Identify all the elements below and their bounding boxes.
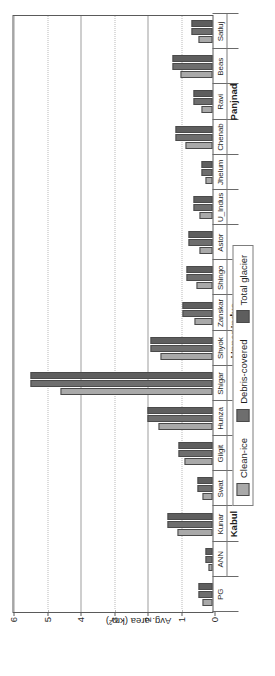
x-tick-label-swat: Swat [215, 480, 224, 497]
bar-total-glacier [188, 231, 212, 238]
x-tick-separator [212, 48, 238, 49]
x-tick-label-ann: ANN [215, 551, 224, 568]
legend-label: Clean-ice [237, 438, 248, 478]
bar-debris-covered [172, 63, 212, 70]
bar-debris-covered [175, 134, 212, 141]
bar-clean-ice [202, 599, 212, 606]
x-tick-label-gilgit: Gilgit [215, 445, 224, 463]
plot-area: 0123456 PGANNKunarSwatGilgitHunzaShigarS… [12, 15, 213, 613]
x-tick-label-chenab: Chenab [215, 123, 224, 150]
bar-total-glacier [182, 302, 212, 309]
bar-debris-covered [178, 450, 212, 457]
x-tick-label-hunza: Hunza [215, 407, 224, 430]
bar-clean-ice [196, 282, 212, 289]
bar-clean-ice [158, 423, 212, 430]
bar-clean-ice [160, 353, 212, 360]
bar-debris-covered [147, 415, 212, 422]
x-tick-label-jhelum: Jhelum [215, 160, 224, 185]
bar-clean-ice [180, 71, 212, 78]
x-tick-separator [212, 189, 238, 190]
bar-group [13, 331, 212, 366]
x-tick-separator [212, 224, 238, 225]
bar-debris-covered [193, 98, 212, 105]
bar-clean-ice [199, 212, 212, 219]
bar-group [13, 542, 212, 577]
bar-group [13, 84, 212, 119]
bar-group [13, 155, 212, 190]
y-tick-mark [214, 612, 215, 616]
legend-swatch-icon [236, 310, 249, 323]
bar-total-glacier [167, 513, 212, 520]
bar-clean-ice [194, 318, 212, 325]
bar-clean-ice [208, 564, 212, 571]
bar-debris-covered [150, 345, 212, 352]
y-axis-title: Avg. area (km²) [105, 616, 170, 627]
bar-total-glacier [30, 372, 212, 379]
legend-swatch-icon [236, 409, 249, 422]
bar-clean-ice [205, 177, 212, 184]
x-tick-label-kunar: Kunar [215, 514, 224, 535]
x-tick-label-pg: PG [215, 589, 224, 600]
bar-group [13, 120, 212, 155]
x-tick-separator [212, 13, 238, 14]
y-tick-mark [181, 612, 182, 616]
bar-debris-covered [182, 310, 212, 317]
y-tick-mark [47, 612, 48, 616]
x-tick-label-shigar: Shigar [215, 372, 224, 395]
x-tick-label-beas: Beas [215, 58, 224, 76]
x-tick-label-zanskar: Zanskar [215, 299, 224, 327]
bar-clean-ice [185, 142, 212, 149]
bar-group [13, 295, 212, 330]
x-tick-label-u_indus: U_Indus [215, 193, 224, 222]
y-tick-mark [80, 612, 81, 616]
x-tick-label-astor: Astor [215, 234, 224, 252]
bar-group [13, 401, 212, 436]
y-tick-label: 1 [175, 617, 186, 622]
group-label-kabul: Kabul [227, 511, 238, 537]
bar-group [13, 436, 212, 471]
x-tick-label-shingo: Shingo [215, 266, 224, 290]
bar-clean-ice [199, 247, 212, 254]
bar-debris-covered [30, 380, 212, 387]
y-tick-label: 6 [8, 617, 19, 622]
legend-label: Debris-covered [237, 339, 248, 403]
x-tick-separator [212, 154, 238, 155]
bar-group [13, 225, 212, 260]
bar-total-glacier [175, 126, 212, 133]
rotated-chart-frame: 0123456 PGANNKunarSwatGilgitHunzaShigarS… [0, 0, 275, 676]
legend-item[interactable]: Debris-covered [236, 339, 249, 421]
bar-debris-covered [197, 485, 212, 492]
bar-total-glacier [191, 20, 212, 27]
bar-group [13, 506, 212, 541]
legend-item[interactable]: Total glacier [236, 255, 249, 324]
y-tick-label: 5 [41, 617, 52, 622]
bar-debris-covered [191, 28, 212, 35]
group-label-panjnad: Panjnad [227, 83, 238, 120]
bar-total-glacier [205, 548, 212, 555]
bar-debris-covered [188, 239, 212, 246]
bar-groups [13, 16, 212, 612]
legend-item[interactable]: Clean-ice [236, 438, 249, 496]
bar-total-glacier [193, 196, 212, 203]
bar-total-glacier [178, 442, 212, 449]
bar-group [13, 260, 212, 295]
bar-total-glacier [197, 477, 212, 484]
legend-swatch-icon [236, 483, 249, 496]
bar-group [13, 366, 212, 401]
bar-total-glacier [201, 161, 212, 168]
bar-debris-covered [167, 521, 212, 528]
bar-total-glacier [172, 55, 212, 62]
bar-debris-covered [205, 556, 212, 563]
bar-debris-covered [201, 169, 212, 176]
bar-clean-ice [60, 388, 212, 395]
bar-clean-ice [198, 36, 212, 43]
legend-label: Total glacier [237, 255, 248, 306]
bar-group [13, 190, 212, 225]
x-tick-separator [212, 611, 238, 612]
bar-clean-ice [184, 458, 212, 465]
x-tick-separator [212, 576, 238, 577]
x-tick-label-shyok: Shyok [215, 337, 224, 359]
bar-total-glacier [198, 583, 212, 590]
bar-total-glacier [186, 266, 212, 273]
bar-debris-covered [186, 274, 212, 281]
